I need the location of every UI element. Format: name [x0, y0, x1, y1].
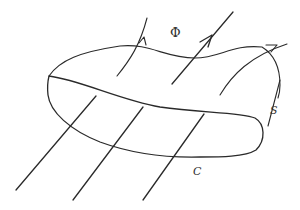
field-line-3-upper [220, 44, 287, 95]
curve-c-loop [48, 76, 263, 157]
field-line-2-upper [172, 12, 233, 84]
field-line-2-lower [73, 107, 143, 200]
arrow-head-2-icon [200, 35, 212, 47]
surface-s-top-edge [49, 46, 280, 98]
flux-label: Φ [170, 25, 181, 40]
surface-label: S [270, 104, 278, 117]
curve-label: C [193, 165, 201, 178]
field-line-1-lower [16, 96, 96, 190]
surface-s-right-edge [268, 80, 280, 126]
flux-diagram-canvas [0, 0, 300, 210]
